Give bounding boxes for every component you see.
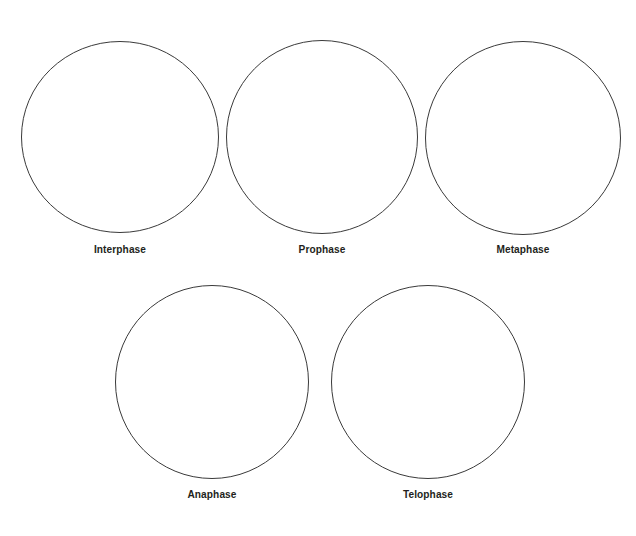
cell-outline-circle [21, 41, 219, 233]
cell-diagram-telophase [331, 285, 525, 479]
cell-diagram-interphase [21, 41, 219, 233]
cell-diagram-anaphase [115, 285, 309, 479]
cell-label-telophase: Telophase [339, 488, 517, 501]
cell-label-prophase: Prophase [234, 243, 411, 256]
cell-label-anaphase: Anaphase [123, 488, 301, 501]
cell-outline-circle [115, 285, 309, 479]
cell-outline-circle [226, 40, 418, 234]
cell-outline-circle [425, 41, 621, 235]
cell-label-interphase: Interphase [29, 243, 211, 256]
cell-outline-circle [331, 285, 525, 479]
cell-label-metaphase: Metaphase [433, 243, 613, 256]
cell-diagram-metaphase [425, 41, 621, 235]
cell-diagram-prophase [226, 40, 418, 234]
mitosis-phases-worksheet: Interphase Prophase Metaphase Anaphase T… [0, 0, 636, 536]
